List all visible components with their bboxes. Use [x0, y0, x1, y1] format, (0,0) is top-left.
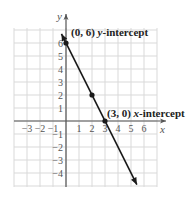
x-tick-label: 5: [129, 123, 134, 134]
data-point: [63, 40, 68, 45]
x-tick-label: −3: [22, 123, 33, 134]
data-point: [102, 118, 107, 123]
x-tick-label: −2: [35, 123, 46, 134]
annotations: (0, 6) y-intercept(3, 0) x-intercept: [71, 26, 185, 120]
y-tick-label: −1: [52, 129, 63, 140]
y-tick-label: 1: [58, 103, 63, 114]
y-tick-label: 5: [58, 51, 63, 62]
y-tick-label: −3: [52, 155, 63, 166]
y-tick-label: −4: [52, 168, 63, 179]
x-axis-label: x: [159, 123, 165, 135]
annotation-y-intercept: (0, 6) y-intercept: [71, 26, 148, 39]
x-tick-label: 4: [116, 123, 121, 134]
y-tick-label: 2: [58, 90, 63, 101]
coordinate-plane: xy −3−2−1123456654321−1−2−3−4 (0, 6) y-i…: [0, 0, 190, 202]
x-tick-label: 2: [90, 123, 95, 134]
x-tick-label: 6: [142, 123, 147, 134]
annotation-x-intercept: (3, 0) x-intercept: [107, 107, 185, 120]
y-axis-label: y: [56, 10, 62, 22]
y-tick-label: 4: [58, 64, 63, 75]
y-tick-label: 3: [58, 77, 63, 88]
x-tick-label: 1: [77, 123, 82, 134]
y-tick-label: −2: [52, 142, 63, 153]
data-point: [89, 92, 94, 97]
